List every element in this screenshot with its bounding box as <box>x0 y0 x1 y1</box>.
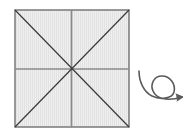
turn-over-arrow-icon <box>139 71 183 101</box>
folding-diagram <box>0 0 196 134</box>
crease-lines <box>15 10 129 127</box>
